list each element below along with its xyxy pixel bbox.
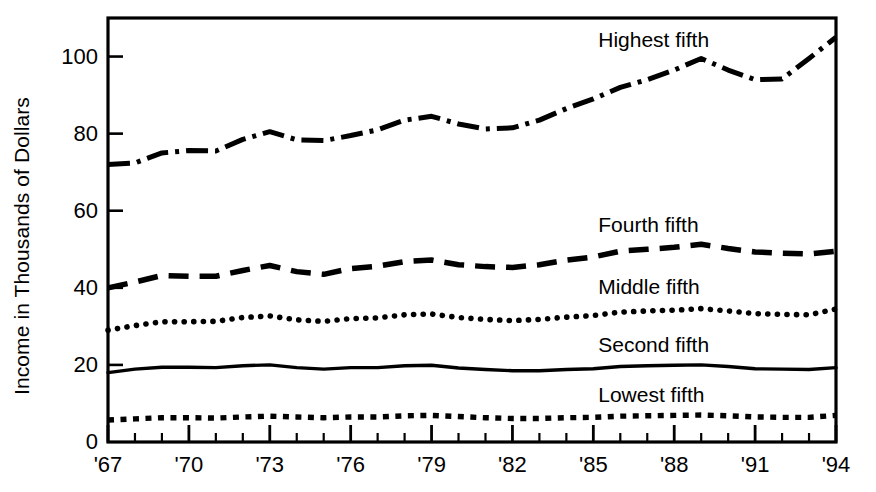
y-tick-label: 60 — [38, 200, 98, 222]
y-tick-label: 40 — [38, 277, 98, 299]
x-tick-label: '85 — [558, 454, 628, 476]
series-line — [108, 415, 836, 420]
x-tick-label: '82 — [477, 454, 547, 476]
series-annotation: Lowest fifth — [596, 384, 706, 405]
x-axis-ticks — [108, 425, 836, 442]
axes-frame — [108, 18, 836, 442]
series-line — [108, 244, 836, 288]
series-line — [108, 37, 836, 164]
y-tick-label: 20 — [38, 354, 98, 376]
y-tick-label: 0 — [38, 431, 98, 453]
y-axis-ticks — [108, 57, 123, 365]
x-tick-label: '73 — [235, 454, 305, 476]
data-series-group — [108, 37, 836, 420]
chart-plot-area — [0, 0, 876, 492]
series-annotation: Highest fifth — [596, 29, 711, 50]
series-annotation: Middle fifth — [596, 276, 702, 297]
y-tick-label: 80 — [38, 123, 98, 145]
y-tick-label: 100 — [38, 46, 98, 68]
series-line — [108, 309, 836, 331]
series-annotation: Second fifth — [596, 334, 711, 355]
series-annotation: Fourth fifth — [596, 214, 700, 235]
x-tick-label: '70 — [154, 454, 224, 476]
y-axis-label: Income in Thousands of Dollars — [0, 0, 44, 492]
x-tick-label: '91 — [720, 454, 790, 476]
x-tick-label: '94 — [801, 454, 871, 476]
x-tick-label: '79 — [397, 454, 467, 476]
x-tick-label: '67 — [73, 454, 143, 476]
x-tick-label: '88 — [639, 454, 709, 476]
chart-figure: Income in Thousands of Dollars 020406080… — [0, 0, 876, 492]
x-tick-label: '76 — [316, 454, 386, 476]
series-line — [108, 365, 836, 373]
